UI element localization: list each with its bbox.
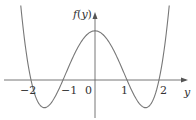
- tick-label-2: 2: [160, 84, 167, 97]
- chart-svg: f(y) y −2 −1 0 1 2: [0, 0, 196, 120]
- tick-label-1: 1: [121, 84, 128, 97]
- tick-label-minus-2: −2: [20, 84, 36, 97]
- tick-label-minus-1: −1: [61, 84, 77, 97]
- y-axis-arrow-icon: [93, 12, 98, 19]
- x-axis-label: y: [183, 86, 191, 99]
- tick-label-0: 0: [85, 84, 92, 97]
- x-axis-arrow-icon: [181, 78, 188, 83]
- y-axis-label: f(y): [72, 8, 92, 21]
